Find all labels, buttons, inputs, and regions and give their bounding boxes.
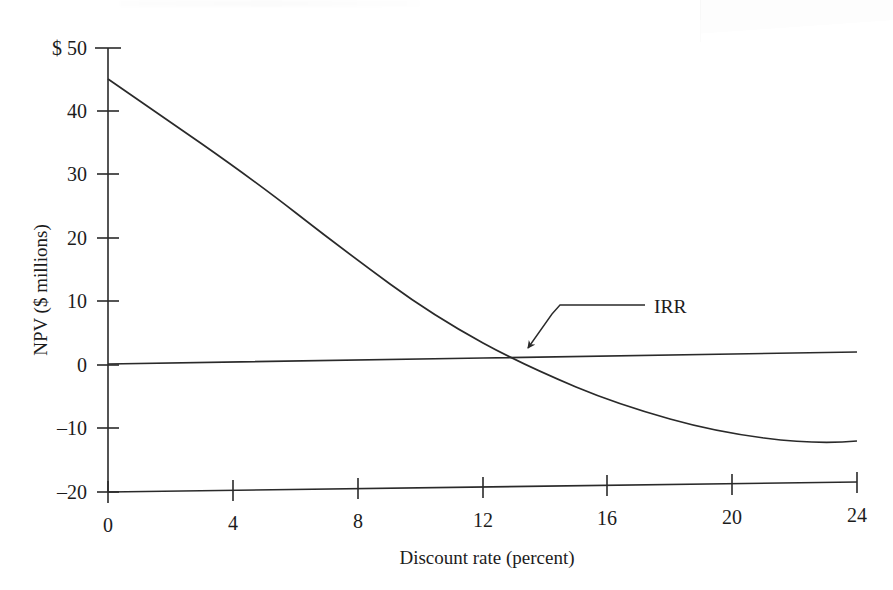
irr-annotation-label: IRR [654, 296, 687, 317]
y-tick-label-50: $ 50 [52, 37, 87, 59]
y-tick-label-30: 30 [67, 163, 87, 185]
x-axis-title: Discount rate (percent) [399, 547, 574, 569]
x-tick-label-0: 0 [103, 514, 113, 536]
y-tick-label-minus-10: –10 [56, 417, 87, 439]
x-tick-label-20: 20 [722, 506, 742, 528]
y-tick-label-40: 40 [67, 100, 87, 122]
x-tick-label-4: 4 [228, 512, 238, 534]
x-tick-label-8: 8 [353, 510, 363, 532]
y-tick-label-20: 20 [67, 227, 87, 249]
y-tick-label-minus-20: –20 [56, 481, 87, 503]
zero-reference-line [108, 352, 857, 364]
y-tick-label-0: 0 [77, 354, 87, 376]
y-tick-label-10: 10 [67, 290, 87, 312]
x-axis-ticks [108, 472, 857, 503]
y-axis-title: NPV ($ millions) [30, 224, 52, 356]
irr-leader-arrow [528, 305, 645, 348]
npv-profile-curve [108, 79, 857, 442]
y-axis-tick-labels: $ 50 40 30 20 10 0 –10 –20 [52, 37, 87, 503]
x-tick-label-24: 24 [847, 504, 867, 526]
x-tick-label-16: 16 [597, 507, 617, 529]
x-tick-label-12: 12 [473, 509, 493, 531]
x-axis-tick-labels: 0 4 8 12 16 20 24 [103, 504, 867, 536]
